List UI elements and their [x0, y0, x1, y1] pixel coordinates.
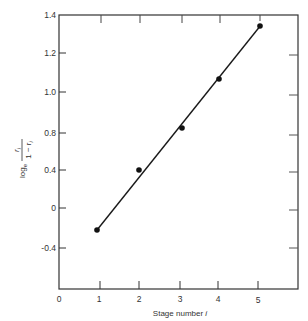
svg-text:loge: loge: [18, 163, 28, 178]
x-tick-label: 2: [137, 294, 142, 304]
data-point: [216, 76, 222, 82]
data-point: [136, 167, 142, 173]
y-tick-labels: 1.4 1.2 1.0 0.8 0.4 0 -0.4: [41, 10, 56, 253]
data-point: [179, 125, 185, 131]
chart-canvas: 1.4 1.2 1.0 0.8 0.4 0 -0.4 0 1 2 3 4 5 S…: [0, 0, 308, 321]
y-tick-label: 0.4: [44, 165, 56, 175]
y-tick-label: 1.4: [44, 10, 56, 20]
x-tick-labels: 0 1 2 3 4 5: [57, 294, 261, 305]
plot-frame: [59, 15, 298, 289]
y-tick-label: 0: [51, 203, 56, 213]
y-tick-label: -0.4: [41, 243, 56, 253]
y-axis-ticks-left: [59, 53, 66, 248]
x-axis-ticks-bottom: [100, 281, 258, 289]
x-tick-label: 3: [178, 294, 183, 304]
svg-text:1 − ri: 1 − ri: [24, 141, 34, 159]
x-tick-label: 5: [256, 295, 261, 305]
x-tick-label: 4: [216, 294, 221, 304]
x-tick-label: 1: [97, 294, 102, 304]
y-tick-label: 1.0: [44, 87, 56, 97]
y-axis-ticks-right: [289, 55, 298, 248]
data-point: [257, 23, 263, 29]
y-tick-label: 0.8: [44, 128, 56, 138]
x-axis-ticks-top: [101, 15, 260, 23]
svg-text:ri: ri: [12, 147, 22, 152]
x-axis-title: Stage number i: [153, 309, 207, 318]
fitted-line: [97, 25, 261, 230]
x-tick-label: 0: [57, 294, 62, 304]
data-point: [94, 227, 100, 233]
y-axis-title: loge ri 1 − ri: [12, 139, 34, 178]
y-tick-label: 1.2: [44, 48, 56, 58]
